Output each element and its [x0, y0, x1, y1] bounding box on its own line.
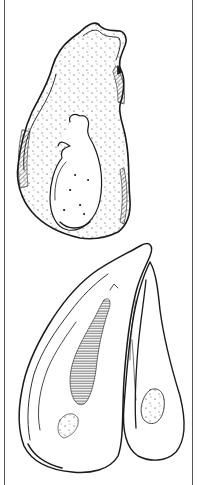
upper-oyster-shell — [18, 23, 131, 239]
lower-oyster-pair — [19, 244, 184, 473]
oyster-illustration — [0, 0, 197, 485]
